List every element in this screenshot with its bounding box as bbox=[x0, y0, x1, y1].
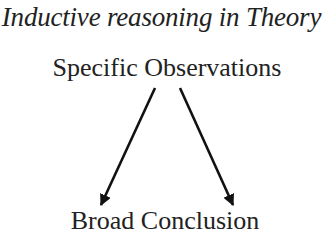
arrow-right bbox=[180, 88, 233, 205]
node-broad-conclusion: Broad Conclusion bbox=[0, 205, 323, 237]
arrow-left bbox=[101, 88, 155, 205]
